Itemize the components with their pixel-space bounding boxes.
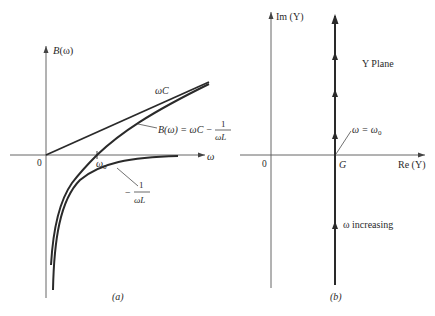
locus-arrow-top: [332, 14, 339, 24]
curve-leader-line: [138, 124, 157, 128]
origin-label-a: 0: [37, 158, 42, 168]
locus-arrow-1: [332, 52, 338, 60]
resonance-leader-line: [336, 131, 351, 154]
origin-label-b: 0: [262, 159, 267, 169]
figure-canvas: BB(ω)(ω) ω 0 ω0 ωC B(ω) = ωC − 1 ωL − 1 …: [0, 0, 435, 316]
locus-arrow-4: [332, 221, 338, 229]
susceptance-formula-den: ωL: [215, 132, 226, 142]
neg-curve-leader-line: [117, 168, 138, 186]
locus-arrow-3: [332, 131, 338, 139]
susceptance-formula-num: 1: [221, 119, 226, 129]
panel-a: BB(ω)(ω) ω 0 ω0 ωC B(ω) = ωC − 1 ωL − 1 …: [10, 45, 231, 303]
neg-curve-num: 1: [139, 180, 144, 190]
omega-increasing-label: ω increasing: [343, 219, 393, 230]
susceptance-curve: [51, 84, 209, 265]
resonance-label: ω = ω0: [352, 124, 382, 137]
caption-a: (a): [112, 291, 124, 303]
b-axis-label: BB(ω)(ω): [53, 45, 74, 57]
y-plane-label: Y Plane: [362, 58, 394, 69]
omega-c-label: ωC: [155, 85, 169, 96]
inductive-susceptance-curve: [53, 156, 178, 290]
omega-c-line: [46, 82, 209, 155]
neg-curve-sign: −: [125, 187, 131, 198]
caption-b: (b): [330, 291, 342, 303]
panel-b: Im (Y) Re (Y) 0 G Y Plane ω = ω0 ω incre…: [240, 11, 426, 303]
re-axis-label: Re (Y): [398, 159, 426, 171]
susceptance-formula: B(ω) = ωC −: [158, 124, 213, 136]
im-axis-label: Im (Y): [276, 11, 304, 23]
omega-axis-label: ω: [207, 151, 214, 162]
g-label: G: [339, 159, 346, 170]
locus-arrow-2: [332, 89, 338, 97]
neg-curve-den: ωL: [134, 195, 145, 205]
